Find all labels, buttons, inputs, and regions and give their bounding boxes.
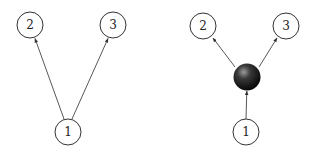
node-label: 3: [282, 19, 290, 33]
node-2: 2: [190, 13, 216, 39]
node-1: 1: [55, 119, 81, 145]
left-diagram: 2 3 1: [17, 12, 126, 145]
node-label: 1: [242, 125, 250, 139]
edge-hub-to-2: [213, 38, 235, 67]
node-label: 3: [109, 18, 117, 32]
node-3: 3: [100, 12, 126, 38]
edge-hub-to-3: [259, 38, 277, 67]
edge-1-to-3: [72, 39, 108, 120]
right-diagram: 2 3 1: [190, 13, 299, 145]
node-label: 2: [26, 18, 34, 32]
node-label: 2: [199, 19, 207, 33]
hub-sphere: [234, 64, 261, 91]
node-3: 3: [273, 13, 299, 39]
edge-1-to-2: [35, 39, 64, 120]
edge-1-to-hub: [246, 91, 247, 119]
node-1: 1: [233, 119, 259, 145]
node-label: 1: [64, 125, 72, 139]
node-2: 2: [17, 12, 43, 38]
diagram-canvas: 2 3 1 2 3 1: [0, 0, 314, 152]
